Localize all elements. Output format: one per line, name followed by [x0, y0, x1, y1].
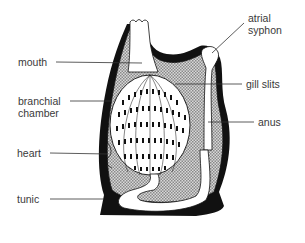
- atrial-pointer: [212, 23, 244, 53]
- label-tunic: tunic: [17, 193, 39, 205]
- label-gill-slits: gill slits: [246, 78, 280, 90]
- label-chamber: chamber: [18, 107, 59, 119]
- label-mouth: mouth: [18, 56, 47, 68]
- label-anus: anus: [258, 116, 281, 128]
- label-syphon: syphon: [248, 24, 282, 36]
- label-heart: heart: [17, 147, 41, 159]
- oral-siphon: [128, 20, 158, 73]
- label-branchial: branchial: [18, 95, 61, 107]
- label-atrial: atrial: [248, 12, 271, 24]
